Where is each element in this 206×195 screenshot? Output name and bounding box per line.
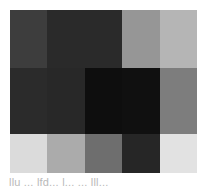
figure-caption: llu ... lfd... l... ... lll...	[9, 176, 201, 192]
heatmap-cell-r3c2	[47, 134, 84, 173]
heatmap-cell-r3c4	[122, 134, 159, 173]
heatmap-cell-r3c5	[160, 134, 197, 173]
heatmap-cell-r1c2	[47, 10, 84, 68]
heatmap-cell-r1c5	[160, 10, 197, 68]
heatmap-cell-r1c3	[85, 10, 122, 68]
heatmap-cell-r2c3	[85, 68, 122, 134]
heatmap-cell-r1c1	[10, 10, 47, 68]
heatmap-grid	[10, 10, 197, 173]
heatmap-cell-r1c4	[122, 10, 159, 68]
heatmap-cell-r2c5	[160, 68, 197, 134]
heatmap-cell-r2c2	[47, 68, 84, 134]
heatmap-cell-r2c4	[122, 68, 159, 134]
heatmap-cell-r2c1	[10, 68, 47, 134]
figure-canvas: llu ... lfd... l... ... lll...	[0, 0, 206, 195]
heatmap-cell-r3c1	[10, 134, 47, 173]
heatmap-cell-r3c3	[85, 134, 122, 173]
